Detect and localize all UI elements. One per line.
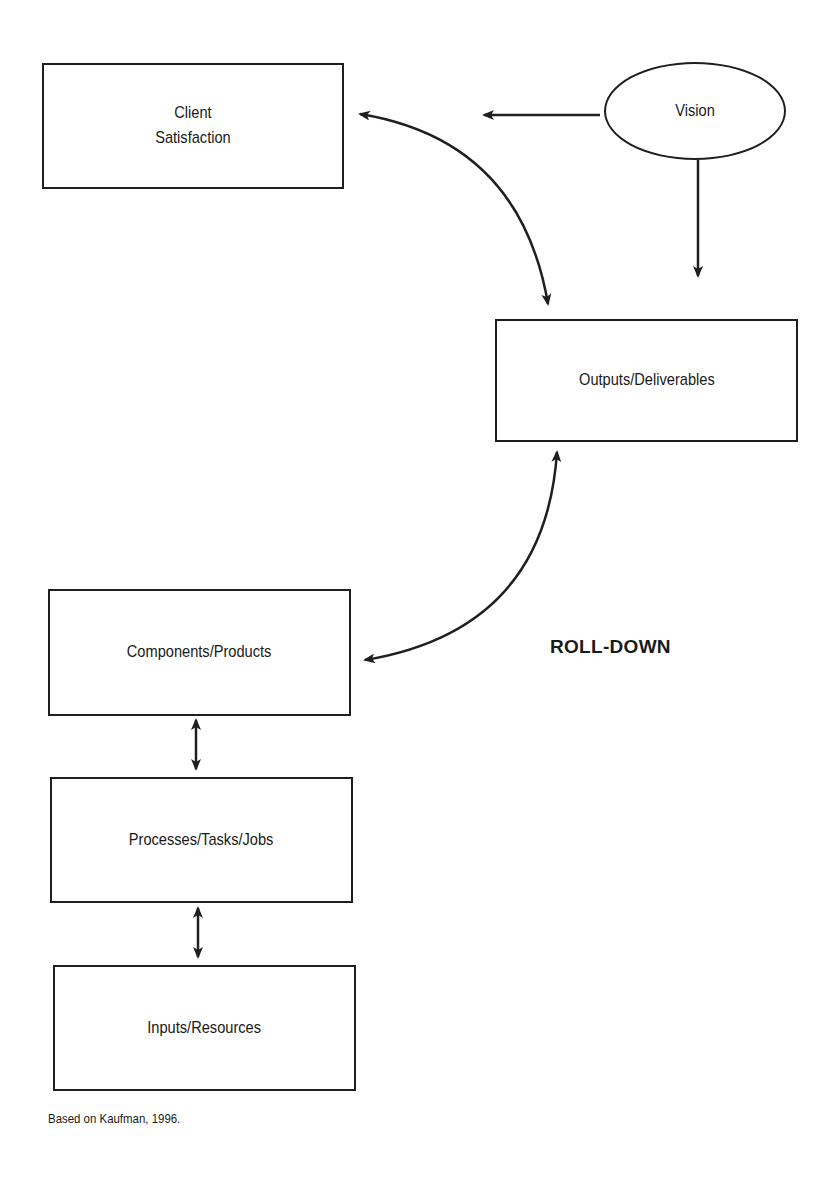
arrow-outputs-components (365, 452, 557, 660)
node-client-satisfaction: Client Satisfaction (42, 63, 344, 189)
node-label: Inputs/Resources (148, 1016, 262, 1041)
node-vision: Vision (604, 62, 786, 160)
arrow-client-outputs (360, 114, 548, 304)
node-label: Components/Products (127, 640, 272, 665)
node-components-products: Components/Products (48, 589, 351, 716)
node-label: Client Satisfaction (155, 101, 231, 150)
node-inputs-resources: Inputs/Resources (53, 965, 356, 1091)
node-outputs-deliverables: Outputs/Deliverables (495, 319, 798, 442)
node-label: Processes/Tasks/Jobs (129, 828, 274, 853)
node-label: Vision (675, 101, 715, 121)
roll-down-label: ROLL-DOWN (550, 636, 671, 658)
node-processes-tasks-jobs: Processes/Tasks/Jobs (50, 777, 353, 903)
source-footnote: Based on Kaufman, 1996. (48, 1111, 180, 1126)
node-label: Outputs/Deliverables (579, 368, 715, 393)
